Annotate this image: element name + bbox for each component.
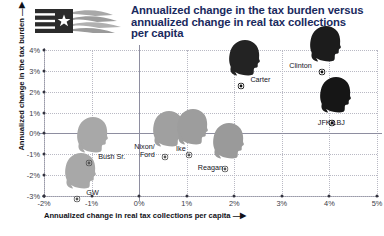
x-tick-label: 5% — [372, 199, 383, 208]
x-tick-mark — [328, 195, 331, 198]
point-marker-icon[interactable] — [319, 61, 326, 68]
president-head-icon — [309, 25, 343, 66]
point-marker-icon[interactable] — [74, 188, 81, 195]
point-marker-icon[interactable] — [162, 147, 169, 154]
president-head-icon — [319, 76, 353, 117]
point-label: Nixon/ Ford — [134, 143, 154, 158]
y-tick-mark — [43, 49, 46, 52]
y-tick-mark — [43, 132, 46, 135]
x-tick-label: -1% — [85, 199, 98, 208]
y-tick-mark — [43, 90, 46, 93]
x-tick-mark — [376, 195, 379, 198]
point-marker-icon[interactable] — [238, 76, 245, 83]
point-label: Bush Sr. — [98, 153, 125, 160]
gridline-horizontal — [44, 71, 377, 72]
y-axis-arrow-icon: —▶ — [17, 2, 26, 16]
y-tick-mark — [43, 153, 46, 156]
x-tick-mark — [280, 195, 283, 198]
point-label: Clinton — [289, 62, 311, 69]
point-marker-icon[interactable] — [86, 153, 93, 160]
y-tick-label: -3% — [16, 192, 40, 201]
x-tick-label: 1% — [181, 199, 192, 208]
x-tick-label: 4% — [324, 199, 335, 208]
scatter-chart: -3%-2%-1%0%1%2%3%4%-2%-1%0%1%2%3%4%5% GW… — [0, 0, 384, 236]
x-tick-mark — [185, 195, 188, 198]
y-tick-label: -2% — [16, 171, 40, 180]
point-label: Ike — [176, 145, 186, 152]
x-tick-mark — [43, 195, 46, 198]
y-tick-mark — [43, 174, 46, 177]
gridline-vertical — [377, 50, 378, 196]
y-axis-label: Annualized change in the tax burden —▶ — [17, 2, 26, 152]
x-tick-label: 3% — [277, 199, 288, 208]
x-tick-mark — [138, 195, 141, 198]
x-axis-label: Annualized change in real tax collection… — [44, 211, 246, 220]
point-marker-icon[interactable] — [186, 145, 193, 152]
x-tick-label: 0% — [134, 199, 145, 208]
x-axis-arrow-icon: —▶ — [233, 211, 247, 220]
president-head-icon — [212, 122, 246, 163]
x-tick-label: -2% — [37, 199, 50, 208]
x-tick-label: 2% — [229, 199, 240, 208]
y-tick-mark — [43, 111, 46, 114]
y-tick-mark — [43, 69, 46, 72]
point-label: Reagan — [198, 164, 223, 171]
y-axis-label-text: Annualized change in the tax burden — [17, 18, 26, 150]
gridline-vertical — [282, 50, 283, 196]
x-tick-mark — [233, 195, 236, 198]
point-label: Carter — [250, 76, 270, 83]
x-axis-label-text: Annualized change in real tax collection… — [44, 211, 231, 220]
point-label: JFK/LBJ — [318, 119, 345, 126]
x-zero-axis — [139, 45, 140, 201]
point-label: GW — [86, 189, 98, 196]
